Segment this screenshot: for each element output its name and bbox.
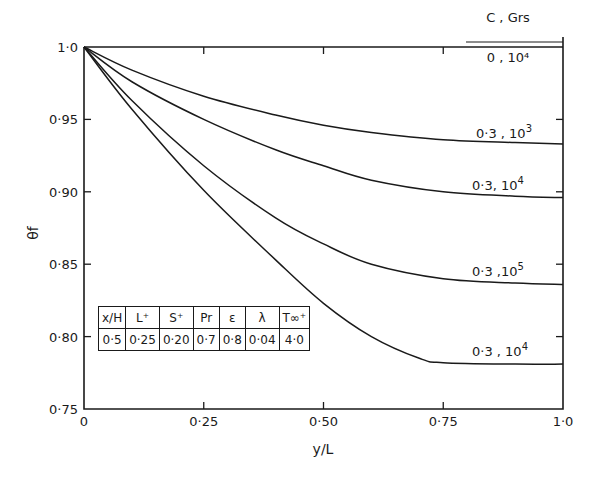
param-value: 4·0 [279, 329, 310, 351]
curve-label: 0·3 , 103 [476, 123, 532, 141]
param-header: λ [245, 307, 279, 329]
param-value: 0·20 [159, 329, 193, 351]
x-axis-label: y/L [313, 441, 334, 457]
parameter-table: x/H L⁺ S⁺ Pr ε λ T∞⁺ 0·5 0·25 0·20 0·7 0… [98, 306, 310, 351]
y-axis-label: θf [25, 225, 41, 240]
x-tick-label: 0·50 [309, 414, 338, 429]
curve-label: 0·3 ,105 [472, 261, 524, 279]
param-header: x/H [99, 307, 126, 329]
x-tick-label: 0·75 [429, 414, 458, 429]
chart-plot: 1·00·950·900·850·800·7500·250·500·751·0y… [0, 0, 591, 480]
param-value: 0·5 [99, 329, 126, 351]
param-header: S⁺ [159, 307, 193, 329]
param-header: Pr [193, 307, 219, 329]
param-header: ε [219, 307, 245, 329]
param-value: 0·7 [193, 329, 219, 351]
y-tick-label: 0·95 [49, 112, 78, 127]
curve-label: 0·3, 104 [472, 175, 524, 193]
parameter-table-values: 0·5 0·25 0·20 0·7 0·8 0·04 4·0 [99, 329, 310, 351]
y-tick-label: 0·80 [49, 330, 78, 345]
curve-label: 0·3 , 104 [472, 341, 528, 359]
param-value: 0·25 [126, 329, 160, 351]
legend-header: C , Grs [486, 10, 530, 25]
y-tick-label: 0·90 [49, 185, 78, 200]
y-tick-label: 1·0 [57, 40, 78, 55]
x-tick-label: 0 [80, 414, 88, 429]
x-tick-label: 0·25 [189, 414, 218, 429]
x-tick-label: 1·0 [553, 414, 574, 429]
param-header: L⁺ [126, 307, 160, 329]
parameter-table-header: x/H L⁺ S⁺ Pr ε λ T∞⁺ [99, 307, 310, 329]
curve-label-c0: 0 , 10⁴ [487, 50, 529, 65]
param-value: 0·04 [245, 329, 279, 351]
y-tick-label: 0·75 [49, 402, 78, 417]
param-value: 0·8 [219, 329, 245, 351]
param-header: T∞⁺ [279, 307, 310, 329]
curve-2 [84, 47, 563, 198]
y-tick-label: 0·85 [49, 257, 78, 272]
